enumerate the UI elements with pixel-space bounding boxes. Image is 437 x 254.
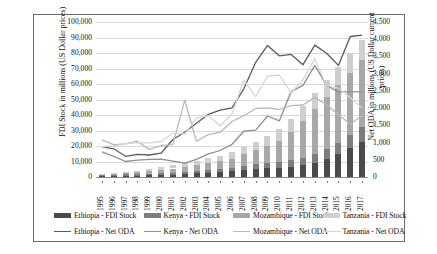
x-axis-tick-label: 2003 — [191, 196, 200, 211]
legend-row-lines: Ethiopia - Net ODAKenya - Net ODAMozambi… — [40, 227, 398, 240]
x-axis-tick-label: 2000 — [155, 196, 164, 211]
x-axis-tick-label: 2002 — [179, 196, 188, 211]
line-layer — [96, 22, 368, 177]
legend-line-icon — [323, 231, 340, 232]
y-axis-left-tick-label: 70,000 — [71, 64, 92, 73]
x-axis-tick-label: 1998 — [131, 196, 140, 211]
legend-swatch-icon — [233, 213, 250, 218]
chart-legend: Ethiopia - FDI StockKenya - FDI StockMoz… — [40, 211, 398, 241]
y-axis-left-tick-label: 0 — [88, 172, 92, 181]
x-axis-tick — [279, 181, 280, 183]
x-axis-tick-label: 2010 — [273, 196, 282, 211]
y-axis-right-tick-label: 3,000 — [373, 69, 390, 78]
gridline — [96, 177, 368, 178]
x-axis-tick — [149, 181, 150, 183]
legend-label: Tanzania - FDI Stock — [343, 211, 407, 220]
x-axis-tick-label: 2007 — [238, 196, 247, 211]
x-axis-tick — [232, 181, 233, 183]
legend-label: Kenya - FDI Stock — [164, 211, 221, 220]
y-axis-left-tick-label: 100,000 — [67, 17, 92, 26]
y-axis-left-tick-label: 60,000 — [71, 79, 92, 88]
x-axis-tick — [327, 181, 328, 183]
x-axis-tick-label: 1996 — [108, 196, 117, 211]
x-axis-tick-label: 2012 — [297, 196, 306, 211]
x-axis-tick-label: 2006 — [226, 196, 235, 211]
x-axis-tick-label: 2013 — [309, 196, 318, 211]
y-axis-left-tick-label: 80,000 — [71, 48, 92, 57]
x-axis-tick-label: 2009 — [261, 196, 270, 211]
x-axis-tick — [267, 181, 268, 183]
legend-item[interactable]: Tanzania - FDI Stock — [323, 211, 407, 220]
y-axis-right-tick-label: 2,500 — [373, 86, 390, 95]
line-series — [102, 35, 362, 156]
y-axis-right-tick-label: 2,000 — [373, 103, 390, 112]
x-axis-tick-label: 2015 — [332, 196, 341, 211]
chart-figure: FDI Stock in millions (US Dollar prices)… — [0, 0, 437, 254]
legend-label: Ethiopia - Net ODA — [74, 227, 134, 236]
legend-item[interactable]: Mozambique - FDI Stock — [233, 211, 330, 220]
x-axis-tick — [173, 181, 174, 183]
x-axis-tick-label: 2004 — [202, 196, 211, 211]
legend-item[interactable]: Ethiopia - Net ODA — [54, 227, 134, 236]
x-axis-tick-label: 2008 — [250, 196, 259, 211]
y-axis-left-tick-label: 50,000 — [71, 95, 92, 104]
legend-row-bars: Ethiopia - FDI StockKenya - FDI StockMoz… — [40, 211, 398, 224]
x-axis-tick-label: 1995 — [96, 196, 105, 211]
y-axis-right-tick-label: 4,000 — [373, 34, 390, 43]
x-axis-tick — [220, 181, 221, 183]
x-axis-tick-label: 1997 — [120, 196, 129, 211]
y-axis-left-tick-label: 90,000 — [71, 33, 92, 42]
legend-line-icon — [144, 231, 161, 232]
x-axis-tick — [197, 181, 198, 183]
legend-swatch-icon — [323, 213, 340, 218]
x-axis-tick — [303, 181, 304, 183]
x-axis-labels: 1995199619971998199920002001200220032004… — [96, 181, 368, 211]
x-axis-tick — [256, 181, 257, 183]
legend-swatch-icon — [144, 213, 161, 218]
legend-label: Ethiopia - FDI Stock — [74, 211, 136, 220]
y-axis-right-tick-label: 1,500 — [373, 120, 390, 129]
y-axis-right-tick-label: 500 — [373, 155, 384, 164]
legend-item[interactable]: Mozambique - Net ODA — [233, 227, 328, 236]
y-axis-left-tick-label: 40,000 — [71, 110, 92, 119]
legend-item[interactable]: Kenya - Net ODA — [144, 227, 219, 236]
y-axis-left-tick-label: 10,000 — [71, 157, 92, 166]
y-axis-right-tick-label: 1,000 — [373, 138, 390, 147]
x-axis-tick — [244, 181, 245, 183]
legend-item[interactable]: Kenya - FDI Stock — [144, 211, 221, 220]
x-axis-tick-label: 2001 — [167, 196, 176, 211]
y-axis-right-tick-label: 3,500 — [373, 51, 390, 60]
plot-area: 010,00020,00030,00040,00050,00060,00070,… — [96, 22, 368, 177]
legend-label: Tanzania - Net ODA — [343, 227, 405, 236]
x-axis-tick-label: 2005 — [214, 196, 223, 211]
legend-item[interactable]: Ethiopia - FDI Stock — [54, 211, 136, 220]
x-axis-tick — [315, 181, 316, 183]
y-axis-right-tick-label: 0 — [373, 172, 377, 181]
legend-label: Kenya - Net ODA — [164, 227, 219, 236]
line-series — [102, 97, 362, 149]
legend-label: Mozambique - FDI Stock — [253, 211, 330, 220]
y-axis-left-tick-label: 20,000 — [71, 141, 92, 150]
x-axis-tick — [338, 181, 339, 183]
x-axis-tick — [350, 181, 351, 183]
x-axis-tick-label: 1999 — [143, 196, 152, 211]
legend-line-icon — [233, 231, 250, 232]
x-axis-tick — [362, 181, 363, 183]
x-axis-tick — [161, 181, 162, 183]
x-axis-tick-label: 2017 — [356, 196, 365, 211]
x-axis-tick-label: 2016 — [344, 196, 353, 211]
y-axis-right-tick-label: 4,500 — [373, 17, 390, 26]
x-axis-tick — [137, 181, 138, 183]
chart-border-box: FDI Stock in millions (US Dollar prices)… — [33, 14, 405, 242]
legend-item[interactable]: Tanzania - Net ODA — [323, 227, 405, 236]
legend-line-icon — [54, 231, 71, 232]
x-axis-tick-label: 2011 — [285, 196, 294, 211]
legend-swatch-icon — [54, 213, 71, 218]
x-axis-tick — [291, 181, 292, 183]
x-axis-tick — [126, 181, 127, 183]
y-axis-left-tick-label: 30,000 — [71, 126, 92, 135]
x-axis-tick — [185, 181, 186, 183]
x-axis-tick — [208, 181, 209, 183]
x-axis-tick-label: 2014 — [321, 196, 330, 211]
x-axis-tick — [114, 181, 115, 183]
